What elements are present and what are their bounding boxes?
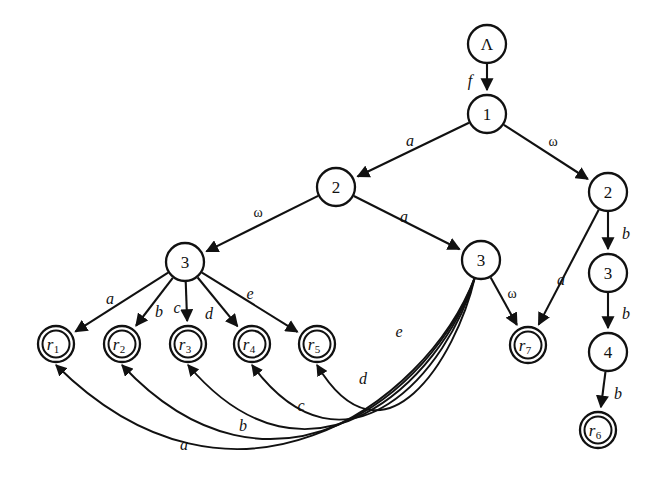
edge-label-e-2R-3R: b bbox=[622, 225, 630, 242]
edge-label-e-1-2L: a bbox=[406, 132, 414, 149]
node-r4-accepting[interactable]: r4 bbox=[234, 326, 270, 362]
node-n2L[interactable]: 2 bbox=[317, 168, 355, 206]
edge-label-e-3L-r5: e bbox=[246, 285, 253, 302]
edge-label-e-2L-3L: ω bbox=[253, 205, 262, 220]
edge-n3L-to-r3 bbox=[186, 282, 187, 321]
edge-layer bbox=[56, 64, 608, 449]
edge-label-e-3L-r3: c bbox=[173, 299, 180, 316]
edge-label-e-2L-3M: a bbox=[400, 208, 408, 225]
node-r5-accepting[interactable]: r5 bbox=[299, 326, 335, 362]
node-n3L[interactable]: 3 bbox=[166, 243, 204, 281]
node-label-n3R: 3 bbox=[604, 264, 613, 283]
node-r3-accepting[interactable]: r3 bbox=[170, 326, 206, 362]
edge-label-e-1-2R: ω bbox=[548, 134, 557, 149]
node-label-n1: 1 bbox=[483, 105, 492, 124]
edge-label-e-3R-4R: b bbox=[622, 305, 630, 322]
edge-label-e-root-1: f bbox=[468, 72, 475, 90]
node-n1[interactable]: 1 bbox=[468, 95, 506, 133]
node-n3R[interactable]: 3 bbox=[589, 254, 627, 292]
edge-n3M-to-r5 bbox=[317, 277, 475, 410]
edge-label-e-3M-r4: d bbox=[359, 370, 368, 387]
automaton-graph: Λ1223334r1r2r3r4r5r6r7 faωωaabbbabcdeωed… bbox=[0, 0, 667, 486]
edge-n1-to-n2R bbox=[504, 125, 588, 179]
edge-n3L-to-r4 bbox=[198, 277, 238, 326]
edge-n4R-to-r6 bbox=[601, 372, 606, 407]
node-label-n3L: 3 bbox=[181, 253, 190, 272]
edge-label-e-4R-r6: b bbox=[614, 385, 622, 402]
edge-label-e-2R-r7: a bbox=[557, 271, 565, 288]
edge-label-e-3M-r3: c bbox=[297, 397, 304, 414]
edge-label-e-3M-r7: ω bbox=[507, 286, 516, 301]
edge-n3M-to-r4 bbox=[252, 277, 475, 420]
diagram-canvas: Λ1223334r1r2r3r4r5r6r7 faωωaabbbabcdeωed… bbox=[0, 0, 667, 486]
node-label-n3M: 3 bbox=[477, 251, 486, 270]
node-root[interactable]: Λ bbox=[468, 25, 506, 63]
node-r1-accepting[interactable]: r1 bbox=[38, 326, 74, 362]
node-label-n4R: 4 bbox=[604, 343, 613, 362]
edge-label-e-3M-r1: a bbox=[180, 436, 188, 453]
node-r6-accepting[interactable]: r6 bbox=[580, 412, 616, 448]
node-label-n2L: 2 bbox=[332, 178, 341, 197]
node-n2R[interactable]: 2 bbox=[589, 173, 627, 211]
edge-label-e-3L-r4: d bbox=[205, 305, 214, 322]
edge-label-e-3L-r1: a bbox=[106, 290, 114, 307]
edge-n3L-to-r5 bbox=[202, 273, 297, 332]
node-r2-accepting[interactable]: r2 bbox=[104, 326, 140, 362]
node-label-n2R: 2 bbox=[604, 183, 613, 202]
node-layer: Λ1223334r1r2r3r4r5r6r7 bbox=[38, 25, 627, 448]
node-n3M[interactable]: 3 bbox=[462, 241, 500, 279]
edge-label-e-3L-r2: b bbox=[155, 303, 163, 320]
node-r7-accepting[interactable]: r7 bbox=[510, 327, 546, 363]
node-label-root: Λ bbox=[481, 35, 494, 54]
node-n4R[interactable]: 4 bbox=[589, 333, 627, 371]
edge-label-e-3M-r5: e bbox=[395, 323, 402, 340]
edge-label-e-3M-r2: b bbox=[239, 417, 247, 434]
